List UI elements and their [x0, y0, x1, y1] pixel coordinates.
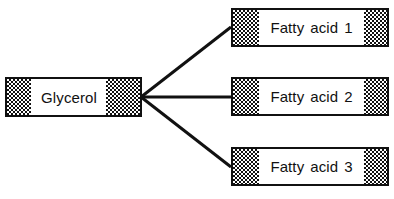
- fatty-acid-1-box: Fattyacid1: [231, 8, 389, 47]
- fatty-acid-3-box: Fattyacid3: [231, 147, 389, 186]
- fatty-acid-3-left-hatch-cap-icon: [233, 149, 259, 184]
- fatty-acid-2-left-hatch-cap-icon: [233, 79, 259, 114]
- connector-line-fatty-acid-3: [141, 97, 231, 167]
- fatty-acid-3-right-hatch-cap-icon: [364, 149, 387, 184]
- triglyceride-diagram: Glycerol Fattyacid1 Fattyacid2 Fattyacid…: [0, 0, 394, 199]
- glycerol-left-hatch-cap-icon: [7, 79, 31, 115]
- fatty-acid-1-right-hatch-cap-icon: [364, 10, 387, 45]
- fatty-acid-2-right-hatch-cap-icon: [364, 79, 387, 114]
- connector-line-fatty-acid-1: [141, 27, 231, 97]
- fatty-acid-1-left-hatch-cap-icon: [233, 10, 259, 45]
- fatty-acid-3-label: Fattyacid3: [259, 149, 364, 184]
- glycerol-right-hatch-cap-icon: [106, 79, 140, 115]
- fatty-acid-1-label: Fattyacid1: [259, 10, 364, 45]
- glycerol-label: Glycerol: [31, 79, 106, 115]
- glycerol-box: Glycerol: [5, 77, 142, 117]
- fatty-acid-2-box: Fattyacid2: [231, 77, 389, 116]
- fatty-acid-2-label: Fattyacid2: [259, 79, 364, 114]
